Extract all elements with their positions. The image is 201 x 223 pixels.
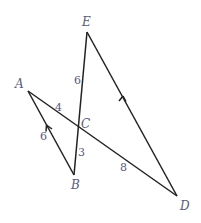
segment-ED	[87, 32, 177, 196]
label-point-A: A	[14, 77, 24, 91]
label-point-B: B	[70, 178, 80, 192]
geometry-diagram: E A C B D 6 4 6 3 8	[0, 0, 201, 223]
measure-AB: 6	[40, 130, 47, 143]
parallel-arrow-icon-ED	[119, 96, 126, 102]
measure-AC: 4	[55, 101, 62, 114]
label-point-E: E	[81, 15, 91, 29]
segment-AB	[28, 91, 74, 175]
measure-CD: 8	[120, 161, 127, 174]
label-point-C: C	[81, 117, 90, 131]
measure-CB: 3	[78, 146, 85, 159]
measure-EC: 6	[74, 74, 81, 87]
label-point-D: D	[179, 199, 190, 213]
segment-AD	[28, 91, 177, 196]
